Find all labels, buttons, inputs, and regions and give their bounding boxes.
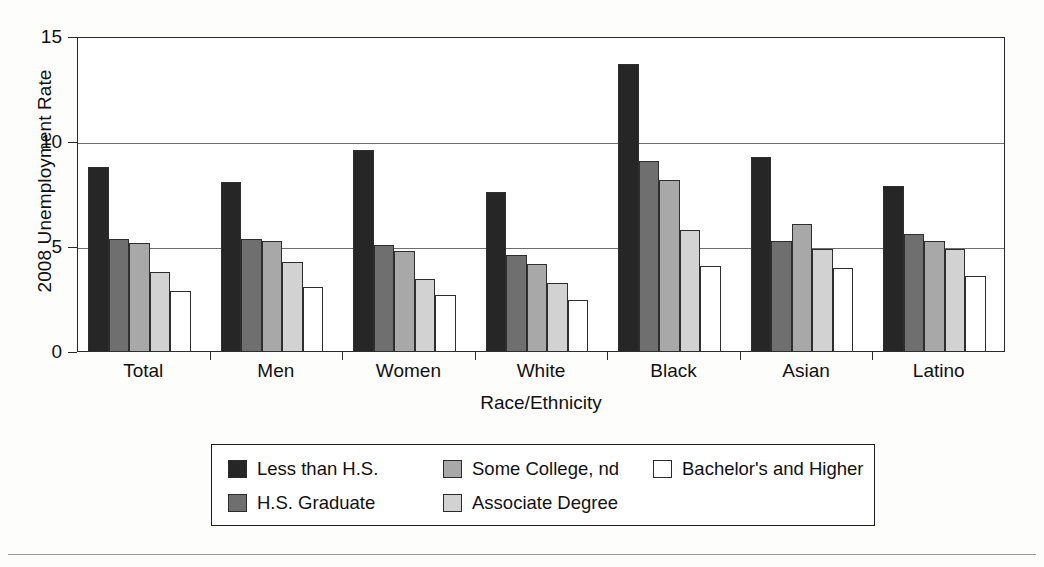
x-axis-tick-mark <box>872 352 873 360</box>
bar-group <box>607 37 740 352</box>
bar <box>659 180 680 352</box>
bar-group <box>872 37 1005 352</box>
bar <box>700 266 721 352</box>
y-axis-tick-label: 0 <box>18 342 62 361</box>
x-axis-tick-mark <box>475 352 476 360</box>
bar <box>904 234 925 352</box>
legend-item-label: H.S. Graduate <box>257 494 375 513</box>
x-axis-tick-mark <box>210 352 211 360</box>
chart-legend: Less than H.S.H.S. GraduateSome College,… <box>211 444 875 526</box>
bar-group <box>342 37 475 352</box>
bar <box>883 186 904 352</box>
x-axis-title: Race/Ethnicity <box>77 392 1005 414</box>
legend-item[interactable]: Some College, nd <box>443 456 619 482</box>
bar <box>506 255 527 352</box>
bar <box>88 167 109 352</box>
bar <box>680 230 701 352</box>
y-axis-title: 2008 Unemployment Rate <box>34 16 56 346</box>
bar <box>262 241 283 352</box>
legend-item[interactable]: H.S. Graduate <box>228 490 375 516</box>
legend-item[interactable]: Less than H.S. <box>228 456 378 482</box>
legend-item-label: Associate Degree <box>472 494 618 513</box>
legend-item-label: Bachelor's and Higher <box>682 460 863 479</box>
bar <box>965 276 986 352</box>
bar <box>924 241 945 352</box>
bar <box>353 150 374 352</box>
legend-swatch-icon <box>228 494 247 512</box>
x-axis-tick-mark <box>740 352 741 360</box>
page-divider <box>8 554 1036 555</box>
bar-group <box>210 37 343 352</box>
bar <box>945 249 966 352</box>
y-axis-tick-mark <box>68 247 77 248</box>
bar <box>833 268 854 352</box>
x-axis-tick-mark <box>607 352 608 360</box>
y-axis-tick-label: 5 <box>18 237 62 256</box>
legend-item[interactable]: Associate Degree <box>443 490 618 516</box>
x-axis-category-labels: TotalMenWomenWhiteBlackAsianLatino <box>77 360 1005 386</box>
x-axis-category-label: Black <box>607 360 740 382</box>
chart-page: 2008 Unemployment Rate 051015 TotalMenWo… <box>0 0 1044 567</box>
legend-item-label: Some College, nd <box>472 460 619 479</box>
legend-swatch-icon <box>228 460 247 478</box>
bar <box>639 161 660 352</box>
x-axis-category-label: White <box>475 360 608 382</box>
x-axis-category-label: Total <box>77 360 210 382</box>
legend-swatch-icon <box>653 460 672 478</box>
bar <box>486 192 507 352</box>
y-axis-tick-mark <box>68 142 77 143</box>
bar <box>751 157 772 352</box>
legend-item-label: Less than H.S. <box>257 460 378 479</box>
bar <box>170 291 191 352</box>
bar <box>547 283 568 352</box>
bar <box>303 287 324 352</box>
bar <box>282 262 303 352</box>
bar <box>150 272 171 352</box>
bar <box>221 182 242 352</box>
x-axis-category-label: Latino <box>872 360 1005 382</box>
bar <box>527 264 548 352</box>
legend-swatch-icon <box>443 494 462 512</box>
legend-item[interactable]: Bachelor's and Higher <box>653 456 863 482</box>
bar-chart: 2008 Unemployment Rate 051015 TotalMenWo… <box>0 0 1044 430</box>
x-axis-category-label: Men <box>210 360 343 382</box>
x-axis-category-label: Asian <box>740 360 873 382</box>
legend-swatch-icon <box>443 460 462 478</box>
bar <box>568 300 589 353</box>
bar-group <box>475 37 608 352</box>
bar <box>771 241 792 352</box>
legend-items: Less than H.S.H.S. GraduateSome College,… <box>228 454 860 518</box>
bar <box>394 251 415 352</box>
bar-group <box>740 37 873 352</box>
x-axis-tick-mark <box>342 352 343 360</box>
bar <box>415 279 436 353</box>
y-axis-tick-label: 10 <box>18 132 62 151</box>
bar-groups <box>77 37 1005 352</box>
bar <box>374 245 395 352</box>
y-axis-tick-mark <box>68 352 77 353</box>
y-axis-tick-label: 15 <box>18 27 62 46</box>
x-axis-category-label: Women <box>342 360 475 382</box>
y-axis-tick-mark <box>68 37 77 38</box>
bar <box>812 249 833 352</box>
bar <box>109 239 130 352</box>
bar <box>129 243 150 352</box>
bar <box>241 239 262 352</box>
bar <box>435 295 456 352</box>
bar <box>618 64 639 352</box>
bar <box>792 224 813 352</box>
bar-group <box>77 37 210 352</box>
